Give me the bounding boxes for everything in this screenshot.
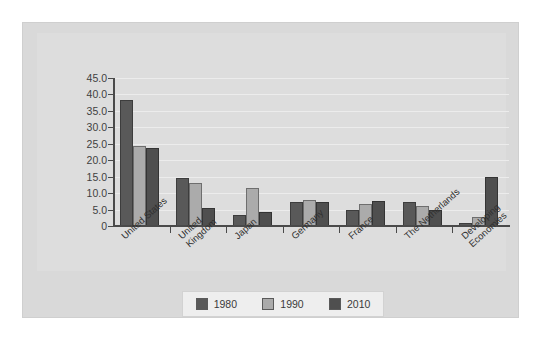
bar-group [346, 78, 385, 226]
bar [485, 177, 498, 226]
y-tick-mark [108, 111, 113, 112]
legend-swatch-icon [262, 298, 274, 310]
x-tick-mark [452, 227, 453, 233]
bar-group [403, 78, 442, 226]
bar [403, 202, 416, 226]
bar [202, 208, 215, 226]
x-tick-mark [170, 227, 171, 233]
bar [429, 210, 442, 226]
bar-group [459, 78, 498, 226]
y-tick-label: 0 [101, 221, 107, 231]
y-tick-label: 5.0 [92, 205, 107, 215]
y-tick-mark [108, 193, 113, 194]
y-tick-mark [108, 226, 113, 227]
y-tick-label: 40.0 [87, 89, 107, 99]
bar [133, 146, 146, 226]
legend-item: 1980 [196, 298, 237, 310]
y-tick-label: 30.0 [87, 122, 107, 132]
bar [372, 201, 385, 226]
bar [259, 212, 272, 226]
y-tick-mark [108, 78, 113, 79]
y-tick-mark [108, 210, 113, 211]
legend-swatch-icon [329, 298, 341, 310]
x-tick-mark [283, 227, 284, 233]
y-tick-label: 10.0 [87, 188, 107, 198]
bar [416, 206, 429, 226]
y-tick-label: 25.0 [87, 139, 107, 149]
y-tick-label: 20.0 [87, 155, 107, 165]
y-tick-label: 15.0 [87, 172, 107, 182]
y-tick-label: 35.0 [87, 106, 107, 116]
x-tick-mark [396, 227, 397, 233]
screenshot-root: 45.040.035.030.025.020.015.010.05.00 Uni… [0, 0, 541, 340]
x-tick-mark [226, 227, 227, 233]
bar [176, 178, 189, 226]
y-tick-mark [108, 160, 113, 161]
legend-label: 1990 [280, 299, 303, 310]
legend-label: 1980 [214, 299, 237, 310]
legend-label: 2010 [347, 299, 370, 310]
legend-swatch-icon [196, 298, 208, 310]
y-tick-mark [108, 94, 113, 95]
bar-chart: 45.040.035.030.025.020.015.010.05.00 [37, 33, 506, 271]
bar [189, 183, 202, 226]
bar [316, 202, 329, 226]
bar [346, 210, 359, 226]
y-tick-mark [108, 177, 113, 178]
bar-group [233, 78, 272, 226]
bar [290, 202, 303, 226]
bar [303, 200, 316, 226]
chart-legend: 198019902010 [182, 291, 384, 317]
legend-item: 2010 [329, 298, 370, 310]
x-axis-line [113, 225, 510, 227]
y-axis-ticks: 45.040.035.030.025.020.015.010.05.00 [37, 78, 113, 227]
x-tick-mark [339, 227, 340, 233]
bar-group [176, 78, 215, 226]
bar-group [120, 78, 159, 226]
bar [146, 148, 159, 226]
y-tick-label: 45.0 [87, 73, 107, 83]
y-tick-mark [108, 144, 113, 145]
bar [359, 204, 372, 226]
bar [246, 188, 259, 226]
plot-area [113, 78, 509, 226]
y-tick-mark [108, 127, 113, 128]
bar [120, 100, 133, 226]
y-axis-line [113, 78, 115, 227]
slide-plate: 45.040.035.030.025.020.015.010.05.00 Uni… [22, 22, 519, 318]
legend-item: 1990 [262, 298, 303, 310]
bar-group [290, 78, 329, 226]
